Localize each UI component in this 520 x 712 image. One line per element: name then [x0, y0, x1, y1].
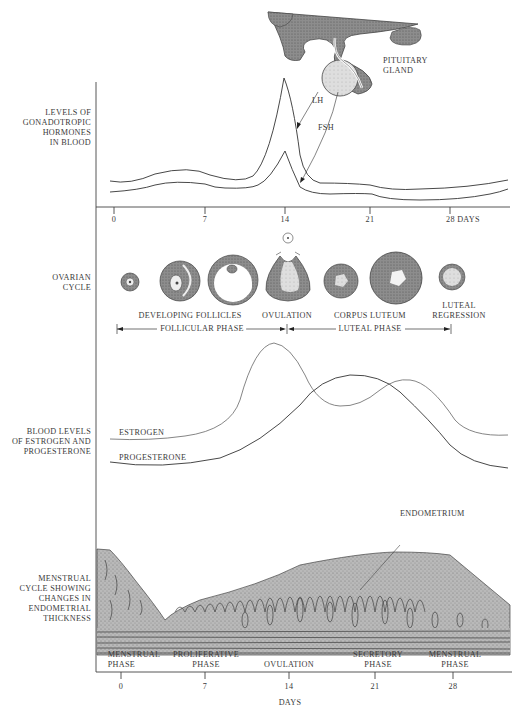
axis-tick-21: 21 — [366, 215, 375, 225]
luteal-regression-label: LUTEAL REGRESSION — [432, 301, 486, 321]
follicular-phase-label: FOLLICULAR PHASE — [158, 324, 246, 334]
bottom-tick-21: 21 — [371, 682, 380, 692]
estrogen-curve — [110, 343, 508, 440]
steroid-panel-label: BLOOD LEVELS OF ESTROGEN AND PROGESTERON… — [12, 427, 91, 457]
days-axis-title: DAYS — [279, 698, 302, 708]
bottom-tick-0: 0 — [119, 682, 123, 692]
bottom-tick-28: 28 — [449, 682, 458, 692]
pituitary-gland-illustration — [268, 12, 421, 96]
ovarian-panel-label: OVARIAN CYCLE — [52, 273, 91, 293]
progesterone-label: PROGESTERONE — [119, 453, 186, 463]
steroid-chart — [110, 343, 508, 468]
ovulation-stage-label: OVULATION — [262, 311, 312, 321]
ovulation-phase-label: OVULATION — [264, 660, 314, 670]
gonadotropin-chart — [96, 78, 510, 214]
luteal-phase-label: LUTEAL PHASE — [336, 324, 403, 334]
endometrium-panel-label: MENSTRUAL CYCLE SHOWING CHANGES IN ENDOM… — [20, 574, 91, 624]
hormone-panel-label: LEVELS OF GONADOTROPIC HORMONES IN BLOOD — [23, 108, 91, 148]
axis-tick-28: 28 DAYS — [446, 215, 480, 225]
pituitary-label: PITUITARY GLAND — [383, 56, 428, 76]
menstrual-phase-label-2: MENSTRUAL PHASE — [429, 650, 482, 670]
corpus-luteum-label: CORPUS LUTEUM — [334, 311, 406, 321]
secretory-phase-label: SECRETORY PHASE — [353, 650, 403, 670]
developing-follicles-label: DEVELOPING FOLLICLES — [138, 311, 241, 321]
menstrual-phase-label-1: MENSTRUAL PHASE — [108, 650, 161, 670]
estrogen-label: ESTROGEN — [119, 428, 164, 438]
bottom-tick-14: 14 — [285, 682, 294, 692]
lh-label: LH — [312, 96, 324, 106]
fsh-label: FSH — [318, 123, 334, 133]
fsh-curve — [110, 151, 508, 200]
lh-curve — [110, 78, 508, 190]
axis-tick-7: 7 — [203, 215, 207, 225]
axis-tick-0: 0 — [112, 215, 116, 225]
endometrium-callout: ENDOMETRIUM — [400, 509, 465, 519]
bottom-tick-7: 7 — [203, 682, 207, 692]
proliferative-phase-label: PROLIFERATIVE PHASE — [173, 650, 239, 670]
axis-tick-14: 14 — [281, 215, 290, 225]
